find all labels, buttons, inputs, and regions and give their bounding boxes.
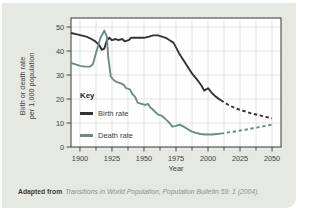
legend-row-birth-rate: Birth rate: [80, 109, 133, 118]
svg-text:1975: 1975: [168, 154, 184, 163]
legend: Key Birth rate Death rate: [80, 91, 133, 140]
page: 190019251950197520002025205001020304050 …: [0, 0, 309, 216]
y-axis-label: Birth or death rate per 1,000 population: [18, 21, 40, 151]
legend-title: Key: [80, 91, 133, 100]
source-caption: Adapted fromTransitions in World Populat…: [18, 188, 292, 197]
y-axis-label-line2: per 1,000 population: [27, 21, 36, 151]
death-rate-swatch: [80, 134, 93, 136]
svg-text:10: 10: [56, 119, 64, 128]
svg-text:2000: 2000: [200, 154, 216, 163]
svg-text:2050: 2050: [264, 154, 280, 163]
svg-text:0: 0: [60, 143, 64, 152]
y-tick-labels: 01020304050: [56, 23, 64, 152]
svg-text:1900: 1900: [72, 154, 88, 163]
x-axis-label: Year: [71, 164, 281, 173]
caption-source-text: Transitions in World Population, Populat…: [65, 188, 259, 195]
svg-text:1950: 1950: [136, 154, 152, 163]
svg-text:2025: 2025: [232, 154, 248, 163]
svg-text:20: 20: [56, 95, 64, 104]
svg-text:50: 50: [56, 23, 64, 32]
legend-row-death-rate: Death rate: [80, 131, 133, 140]
svg-text:1925: 1925: [104, 154, 120, 163]
y-axis-label-line1: Birth or death rate: [18, 21, 27, 151]
x-tick-labels: 1900192519501975200020252050: [72, 154, 280, 163]
birth-rate-swatch: [80, 112, 93, 114]
birth-rate-label: Birth rate: [98, 109, 128, 118]
svg-text:40: 40: [56, 47, 64, 56]
demographic-transition-chart: 190019251950197520002025205001020304050: [0, 0, 309, 216]
death-rate-label: Death rate: [98, 131, 133, 140]
svg-text:30: 30: [56, 71, 64, 80]
caption-prefix: Adapted from: [18, 188, 65, 195]
